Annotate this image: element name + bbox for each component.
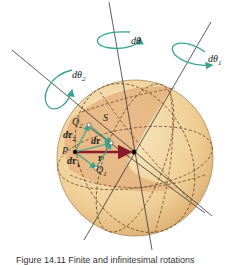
label-dtheta1: dθ1	[208, 54, 221, 67]
figure-caption: Figure 14.11 Finite and infinitesimal ro…	[16, 255, 194, 265]
label-dr: ddrr	[91, 136, 100, 146]
label-dtheta2: dθ2	[72, 70, 85, 83]
label-r: r	[98, 153, 102, 163]
label-dr1: dr1	[67, 156, 80, 169]
label-S: S	[103, 113, 108, 123]
label-dr2: dr2	[63, 130, 76, 143]
rotation-arrow-dtheta2	[45, 70, 72, 109]
label-Q1: Q1	[96, 165, 107, 178]
label-Q2: Q2	[72, 117, 83, 130]
label-dtheta: dθ	[131, 36, 141, 46]
